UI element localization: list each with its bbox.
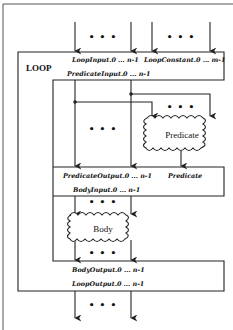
predicate-result-label: Predicate	[167, 172, 202, 180]
predicate-inputs-label: PredicateInput.0 ... n-1	[66, 70, 150, 78]
body-out-ellipsis: • • •	[89, 248, 118, 258]
input-ellipsis: • • •	[89, 32, 118, 42]
loop-title: LOOP	[26, 63, 52, 73]
incoming-arrows: • • • • • •	[75, 22, 210, 51]
body-node: Body	[68, 213, 129, 242]
constant-ellipsis: • • •	[167, 32, 196, 42]
loop-constants-label: LoopConstant.0 ... m-1	[143, 56, 225, 64]
body-outputs-label: BodyOutput.0 ... n-1	[71, 266, 145, 274]
outgoing-arrows: • • •	[75, 291, 131, 318]
loop-diagram: • • • • • • LOOP LoopInput.0 ... n-1 Loo…	[0, 0, 233, 330]
body-node-label: Body	[93, 224, 113, 234]
loop-inputs-label: LoopInput.0 ... n-1	[71, 56, 139, 64]
predicate-in-ellipsis: • • •	[167, 102, 196, 112]
predicate-node: Predicate	[144, 116, 206, 151]
loop-outputs-label: LoopOutput.0 ... n-1	[71, 280, 144, 288]
output-ellipsis: • • •	[89, 300, 118, 310]
body-in-ellipsis: • • •	[89, 197, 118, 207]
predicate-outputs-label: PredicateOutput.0 ... n-1	[62, 172, 152, 180]
predicate-node-label: Predicate	[165, 130, 198, 140]
body-inputs-label: BodyInput.0 ... n-1	[72, 186, 140, 194]
predicate-section-ellipsis: • • •	[89, 124, 118, 134]
